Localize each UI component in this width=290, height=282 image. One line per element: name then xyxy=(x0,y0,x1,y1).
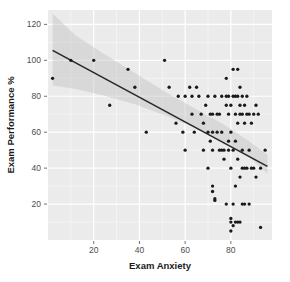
data-point xyxy=(241,95,244,98)
data-point xyxy=(222,149,225,152)
data-point xyxy=(238,104,241,107)
data-point xyxy=(229,104,232,107)
data-point xyxy=(247,113,250,116)
y-tick-label: 60 xyxy=(32,127,42,137)
data-point xyxy=(193,131,196,134)
data-point xyxy=(206,166,209,169)
data-point xyxy=(229,166,232,169)
data-point xyxy=(225,202,228,205)
data-point xyxy=(190,95,193,98)
x-tick-label: 80 xyxy=(226,245,236,255)
data-point xyxy=(236,95,239,98)
data-point xyxy=(167,86,170,89)
data-point xyxy=(247,202,250,205)
data-point xyxy=(227,95,230,98)
data-point xyxy=(202,149,205,152)
data-point xyxy=(51,77,54,80)
data-point xyxy=(241,149,244,152)
data-point xyxy=(211,184,214,187)
data-point xyxy=(236,68,239,71)
data-point xyxy=(190,113,193,116)
data-point xyxy=(247,149,250,152)
data-point xyxy=(254,175,257,178)
data-point xyxy=(181,131,184,134)
data-point xyxy=(199,113,202,116)
data-point xyxy=(245,95,248,98)
data-point xyxy=(177,95,180,98)
data-point xyxy=(252,166,255,169)
x-axis-title: Exam Anxiety xyxy=(129,260,192,271)
data-point xyxy=(195,86,198,89)
data-point xyxy=(225,77,228,80)
data-point xyxy=(234,184,237,187)
data-point xyxy=(222,157,225,160)
data-point xyxy=(238,86,241,89)
y-tick-label: 40 xyxy=(32,163,42,173)
data-point xyxy=(209,140,212,143)
data-point xyxy=(211,131,214,134)
data-point xyxy=(263,149,266,152)
data-point xyxy=(254,104,257,107)
data-point xyxy=(183,95,186,98)
y-axis-title: Exam Performance % xyxy=(5,76,16,174)
data-point xyxy=(215,131,218,134)
data-point xyxy=(259,226,262,229)
data-point xyxy=(243,104,246,107)
data-point xyxy=(220,131,223,134)
data-point xyxy=(236,157,239,160)
data-point xyxy=(211,149,214,152)
plot-canvas: 20406080 20406080100120 Exam Anxiety Exa… xyxy=(0,0,290,282)
data-point xyxy=(206,131,209,134)
data-point xyxy=(204,104,207,107)
data-point xyxy=(243,122,246,125)
data-point xyxy=(126,68,129,71)
data-point xyxy=(238,175,241,178)
x-tick-label: 20 xyxy=(89,245,99,255)
data-point xyxy=(238,220,241,223)
data-point xyxy=(92,59,95,62)
data-point xyxy=(174,122,177,125)
data-point xyxy=(245,166,248,169)
data-point xyxy=(257,113,260,116)
data-point xyxy=(108,104,111,107)
data-point xyxy=(234,113,237,116)
data-point xyxy=(259,166,262,169)
data-point xyxy=(163,59,166,62)
data-point xyxy=(211,190,214,193)
data-point xyxy=(236,122,239,125)
data-point xyxy=(227,140,230,143)
data-point xyxy=(229,131,232,134)
data-point xyxy=(69,59,72,62)
y-tick-label: 80 xyxy=(32,91,42,101)
data-point xyxy=(252,113,255,116)
y-tick-label: 100 xyxy=(27,55,41,65)
y-tick-label: 120 xyxy=(27,19,41,29)
data-point xyxy=(213,95,216,98)
data-point xyxy=(133,86,136,89)
data-point xyxy=(145,131,148,134)
x-tick-label: 60 xyxy=(180,245,190,255)
data-point xyxy=(234,140,237,143)
data-point xyxy=(229,217,232,220)
data-point xyxy=(211,113,214,116)
data-point xyxy=(183,149,186,152)
data-point xyxy=(231,68,234,71)
data-point xyxy=(202,122,205,125)
data-point xyxy=(231,202,234,205)
data-point xyxy=(197,95,200,98)
x-tick-label: 40 xyxy=(135,245,145,255)
data-point xyxy=(231,224,234,227)
data-point xyxy=(229,220,232,223)
data-point xyxy=(227,113,230,116)
data-point xyxy=(227,149,230,152)
data-point xyxy=(188,86,191,89)
data-point xyxy=(225,104,228,107)
scatter-plot-figure: 20406080 20406080100120 Exam Anxiety Exa… xyxy=(0,0,290,282)
data-point xyxy=(220,95,223,98)
data-point xyxy=(241,113,244,116)
data-point xyxy=(206,95,209,98)
data-point xyxy=(218,113,221,116)
data-point xyxy=(250,122,253,125)
data-point xyxy=(231,149,234,152)
data-point xyxy=(213,197,216,200)
